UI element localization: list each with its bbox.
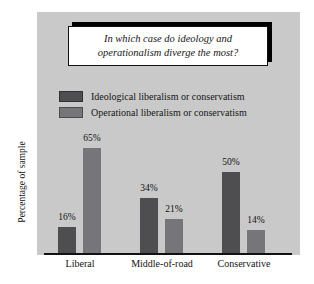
bar-middle-operational [165,219,183,253]
plot-area: 16% 65% 34% 21% 50% 14% [0,0,314,284]
bar-value-liberal-operational: 65% [72,133,112,143]
bar-liberal-operational [83,148,101,253]
bar-conservative-operational [247,230,265,253]
bar-value-middle-ideological: 34% [129,183,169,193]
bar-liberal-ideological [58,227,76,253]
bar-value-liberal-ideological: 16% [47,212,87,222]
bar-chart-figure: In which case do ideology and operationa… [0,0,314,284]
x-axis-tick-conservative: Conservative [189,258,299,269]
bar-value-middle-operational: 21% [154,204,194,214]
bar-value-conservative-ideological: 50% [211,157,251,167]
x-axis-line [44,253,292,255]
bar-value-conservative-operational: 14% [236,215,276,225]
bar-conservative-ideological [222,172,240,253]
